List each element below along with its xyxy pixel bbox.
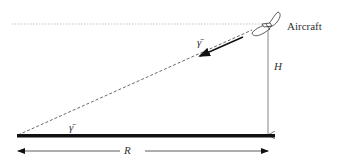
ground-line bbox=[17, 134, 275, 138]
height-label: H bbox=[274, 60, 282, 72]
range-label: R bbox=[124, 144, 131, 156]
gamma-label-bottom: γ̄ bbox=[69, 121, 73, 133]
line-of-sight bbox=[18, 30, 252, 135]
gamma-label-top: γ̄ bbox=[197, 36, 201, 48]
aircraft-label: Aircraft bbox=[287, 20, 322, 32]
velocity-arrow bbox=[200, 37, 243, 56]
